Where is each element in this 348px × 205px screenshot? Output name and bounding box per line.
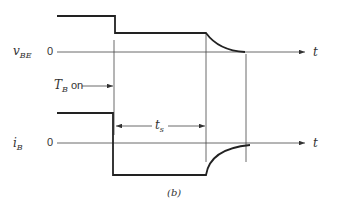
figure-caption: (b): [167, 188, 181, 198]
vbe-waveform: [57, 16, 245, 52]
vbe-zero-label: 0: [47, 46, 53, 57]
tb-on-label: TB on: [54, 79, 83, 94]
vbe-label: vBE: [13, 45, 32, 60]
ib-label: iB: [13, 137, 23, 152]
ib-waveform: [57, 113, 250, 175]
vbe-t-label: t: [313, 46, 318, 58]
ib-t-label: t: [313, 137, 318, 149]
waveform-diagram: [0, 0, 348, 205]
ts-label: ts: [155, 119, 164, 134]
ib-zero-label: 0: [47, 137, 53, 148]
